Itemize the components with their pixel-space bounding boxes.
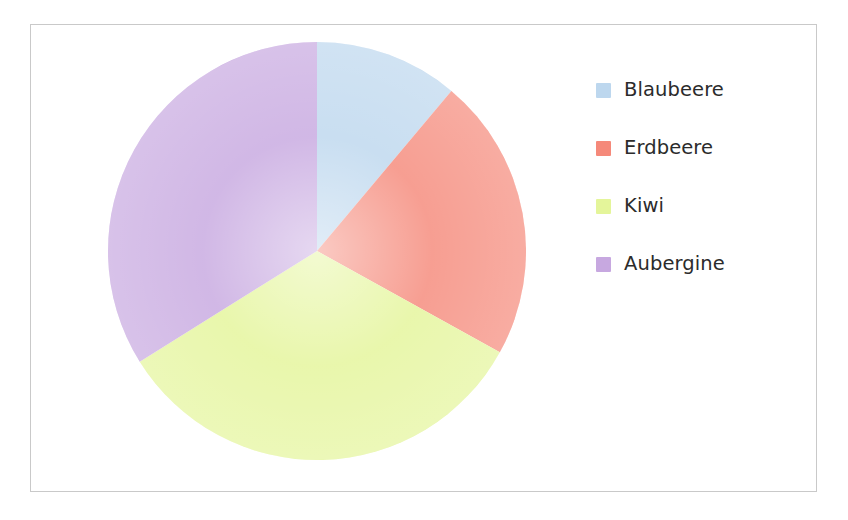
legend-item-label: Kiwi xyxy=(624,196,664,216)
legend-item-label: Blaubeere xyxy=(624,80,724,100)
legend-item-erdbeere[interactable]: Erdbeere xyxy=(596,135,806,161)
legend-item-kiwi[interactable]: Kiwi xyxy=(596,193,806,219)
legend-swatch-icon xyxy=(596,199,611,214)
legend-item-label: Aubergine xyxy=(624,254,725,274)
legend-item-blaubeere[interactable]: Blaubeere xyxy=(596,77,806,103)
legend-item-aubergine[interactable]: Aubergine xyxy=(596,251,806,277)
pie-sheen-overlay xyxy=(108,42,526,460)
pie-chart[interactable] xyxy=(107,41,527,461)
plot-area: BlaubeereErdbeereKiwiAubergine xyxy=(31,25,818,493)
legend-swatch-icon xyxy=(596,83,611,98)
legend-item-label: Erdbeere xyxy=(624,138,713,158)
legend-swatch-icon xyxy=(596,257,611,272)
chart-legend: BlaubeereErdbeereKiwiAubergine xyxy=(596,77,806,309)
chart-frame: BlaubeereErdbeereKiwiAubergine xyxy=(30,24,817,492)
legend-swatch-icon xyxy=(596,141,611,156)
